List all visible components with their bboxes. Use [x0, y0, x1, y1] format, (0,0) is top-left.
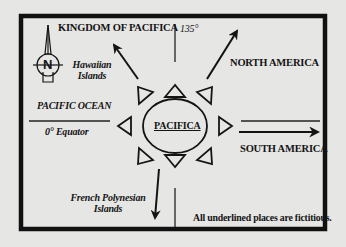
- north-compass-icon: [33, 25, 63, 82]
- pacific-ocean-label: PACIFIC OCEAN: [37, 100, 111, 111]
- arrow-french-polynesia: [155, 169, 159, 218]
- map-diagram: N KINGDOM OF PACIFICA 135° Hawaiian Isla…: [0, 0, 346, 247]
- fictitious-note: All underlined places are fictitious.: [193, 212, 332, 223]
- pacifica-label: PACIFICA: [154, 120, 201, 131]
- french-polynesian-label: French Polynesian Islands: [70, 192, 146, 214]
- compass-n-label: N: [43, 57, 52, 72]
- meridian-label: 135°: [180, 23, 198, 34]
- hawaiian-islands-label: Hawaiian Islands: [72, 59, 112, 81]
- south-america-label: SOUTH AMERICA: [240, 143, 328, 154]
- arrow-north-america: [207, 31, 237, 79]
- arrow-kingdom: [114, 45, 138, 79]
- kingdom-label: KINGDOM OF PACIFICA: [58, 22, 178, 33]
- north-america-label: NORTH AMERICA: [230, 57, 319, 68]
- equator-label: 0° Equator: [45, 126, 88, 137]
